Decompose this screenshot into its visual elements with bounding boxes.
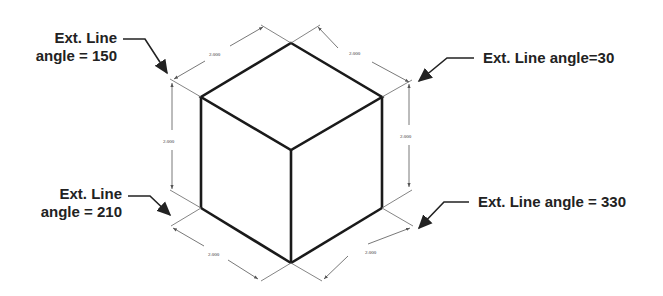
dim-top-left-edge: 2.000 [209,52,221,57]
cube [201,43,382,263]
dim-left-vertical: 2.000 [163,139,175,144]
leader-top-right [419,58,474,81]
callout-bottom-left-line1: Ext. Line [24,185,122,203]
callout-top-left: Ext. Line angle = 150 [20,29,117,65]
leader-top-left [123,39,167,73]
callout-top-left-line2: angle = 150 [20,47,117,65]
dim-right-vertical: 2.000 [400,134,412,139]
dim-bottom-right-edge: 2.000 [365,250,377,255]
callout-leaders [123,39,474,228]
callout-bottom-right: Ext. Line angle = 330 [478,193,626,211]
dim-top-right-edge: 2.000 [349,51,361,56]
callout-top-right-line1: Ext. Line angle=30 [483,49,614,67]
cube-top-face [201,43,382,150]
callout-bottom-left-line2: angle = 210 [24,203,122,221]
callout-top-left-line1: Ext. Line [20,29,117,47]
dim-bottom-left-edge: 2.000 [208,252,220,257]
callout-bottom-right-line1: Ext. Line angle = 330 [478,193,626,211]
callout-bottom-left: Ext. Line angle = 210 [24,185,122,221]
leader-bottom-left [128,196,170,215]
callout-top-right: Ext. Line angle=30 [483,49,614,67]
leader-bottom-right [419,202,469,228]
